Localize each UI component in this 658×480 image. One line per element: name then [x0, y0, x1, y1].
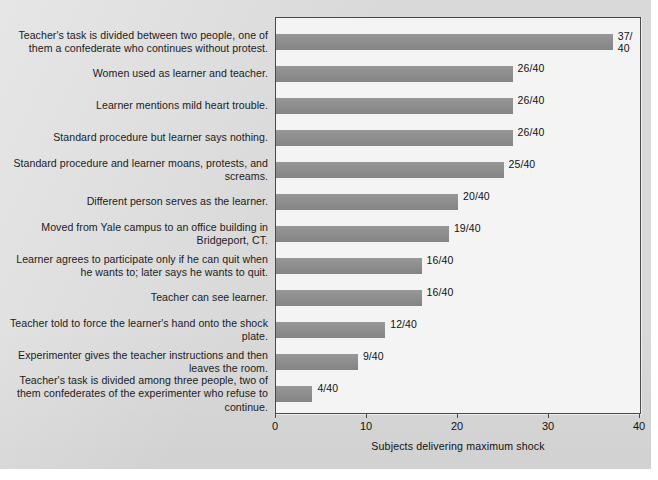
- x-tick-label: 20: [442, 420, 472, 432]
- x-tick-label: 30: [533, 420, 563, 432]
- bar: [276, 34, 613, 50]
- bar-row: 26/40: [276, 58, 640, 90]
- bar: [276, 354, 358, 370]
- bar-value-label: 9/40: [363, 351, 387, 363]
- bar-row: 20/40: [276, 186, 640, 218]
- x-axis: 010203040: [275, 413, 641, 414]
- x-tick-label: 40: [624, 420, 654, 432]
- bar: [276, 226, 449, 242]
- bar-value-label: 26/40: [518, 63, 542, 75]
- bar: [276, 194, 458, 210]
- category-label: Learner agrees to participate only if he…: [8, 253, 268, 280]
- category-label: Learner mentions mild heart trouble.: [8, 99, 268, 113]
- bar-row: 19/40: [276, 218, 640, 250]
- bar: [276, 66, 513, 82]
- x-tick-label: 0: [260, 420, 290, 432]
- bar: [276, 130, 513, 146]
- bar-value-label: 12/40: [390, 319, 414, 331]
- bar-value-label: 26/40: [518, 95, 542, 107]
- category-label: Teacher's task is divided among three pe…: [8, 374, 268, 415]
- category-label: Teacher can see learner.: [8, 291, 268, 305]
- category-label: Teacher's task is divided between two pe…: [8, 29, 268, 56]
- bar-row: 9/40: [276, 346, 640, 378]
- bar-row: 16/40: [276, 282, 640, 314]
- bar-value-label: 26/40: [518, 127, 542, 139]
- category-label: Experimenter gives the teacher instructi…: [8, 349, 268, 376]
- bar-value-label: 37/ 40: [618, 31, 642, 54]
- category-label: Moved from Yale campus to an office buil…: [8, 221, 268, 248]
- x-tick-mark: [639, 413, 640, 418]
- category-label: Standard procedure and learner moans, pr…: [8, 157, 268, 184]
- bar-row: 37/ 40: [276, 26, 640, 58]
- bar-value-label: 16/40: [427, 255, 451, 267]
- bar: [276, 258, 422, 274]
- x-tick-mark: [366, 413, 367, 418]
- bar: [276, 162, 504, 178]
- category-label: Different person serves as the learner.: [8, 195, 268, 209]
- x-tick-mark: [548, 413, 549, 418]
- bar-row: 16/40: [276, 250, 640, 282]
- bar-row: 26/40: [276, 122, 640, 154]
- bar: [276, 98, 513, 114]
- x-tick-mark: [457, 413, 458, 418]
- bar-value-label: 25/40: [509, 159, 533, 171]
- bar: [276, 290, 422, 306]
- category-label: Teacher told to force the learner's hand…: [8, 317, 268, 344]
- category-label: Women used as learner and teacher.: [8, 67, 268, 81]
- x-axis-title: Subjects delivering maximum shock: [275, 440, 641, 452]
- bar-value-label: 19/40: [454, 223, 478, 235]
- bar: [276, 386, 312, 402]
- bar-row: 25/40: [276, 154, 640, 186]
- x-tick-mark: [275, 413, 276, 418]
- bar-row: 12/40: [276, 314, 640, 346]
- category-label: Standard procedure but learner says noth…: [8, 131, 268, 145]
- bar-value-label: 16/40: [427, 287, 451, 299]
- bars-layer: 37/ 4026/4026/4026/4025/4020/4019/4016/4…: [276, 18, 640, 413]
- figure-panel: Teacher's task is divided between two pe…: [0, 0, 651, 469]
- bar-value-label: 4/40: [317, 383, 341, 395]
- bar-row: 26/40: [276, 90, 640, 122]
- bar-value-label: 20/40: [463, 191, 487, 203]
- x-tick-label: 10: [351, 420, 381, 432]
- bar: [276, 322, 385, 338]
- bar-row: 4/40: [276, 378, 640, 410]
- category-labels: Teacher's task is divided between two pe…: [8, 18, 268, 413]
